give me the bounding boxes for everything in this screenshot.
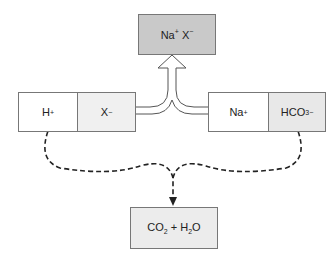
- co2-water-label: CO2 + H2O: [147, 221, 200, 235]
- product-co2-water-box: CO2 + H2O: [130, 207, 218, 249]
- proton-cell: H+: [19, 93, 77, 131]
- acid-box: H+ X−: [18, 92, 136, 132]
- dashed-curve-right: [173, 131, 301, 178]
- dashed-curve-left: [45, 131, 173, 197]
- hollow-arrow-up: [135, 55, 208, 107]
- salt-label: Na+ X−: [161, 28, 194, 41]
- anion-cell: X−: [77, 93, 135, 131]
- bicarbonate-box: Na+ HCO3−: [208, 92, 326, 132]
- bicarbonate-cell: HCO3−: [268, 93, 325, 131]
- product-salt-box: Na+ X−: [138, 14, 216, 55]
- sodium-cell: Na+: [209, 93, 268, 131]
- arrowhead-down-icon: [169, 197, 177, 206]
